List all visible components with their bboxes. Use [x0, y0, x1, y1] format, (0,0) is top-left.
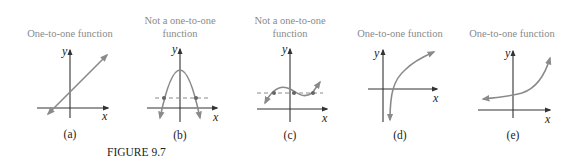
panel-d-label: (d): [393, 129, 407, 142]
x-axis-label: x: [432, 91, 439, 105]
panel-c-title-line1: Not a one-to-one: [254, 15, 325, 26]
panel-b-label: (b): [173, 129, 187, 142]
logarithmic-curve: [390, 52, 434, 120]
figure-caption: FIGURE 9.7: [107, 146, 166, 158]
x-axis-label: x: [321, 111, 328, 125]
panel-c-label: (c): [284, 129, 297, 142]
y-axis-label: y: [373, 46, 380, 60]
x-axis-label: x: [544, 112, 551, 126]
panel-a-label: (a): [64, 128, 77, 141]
panel-b: Not a one-to-one function y x (b): [144, 15, 219, 142]
panel-b-title-line1: Not a one-to-one: [144, 15, 215, 26]
line-curve: [48, 55, 107, 114]
panel-d: One-to-one function y x (d): [357, 28, 443, 142]
panel-c: Not a one-to-one function y x (c): [254, 15, 328, 142]
x-axis-label: x: [101, 109, 108, 123]
panel-e-title: One-to-one function: [469, 28, 555, 39]
figure-9-7: One-to-one function y x (a) Not a one-to…: [0, 0, 567, 165]
intersection-point: [194, 96, 198, 100]
intersection-point: [272, 91, 276, 95]
panel-b-title-line2: function: [163, 28, 199, 39]
intersection-point: [311, 91, 315, 95]
x-axis-label: x: [212, 110, 219, 124]
y-axis-label: y: [281, 42, 288, 56]
panel-e: One-to-one function y x (e): [469, 28, 555, 142]
panel-e-label: (e): [507, 129, 520, 142]
y-axis-label: y: [171, 42, 178, 56]
panel-c-title-line2: function: [273, 28, 309, 39]
panel-d-title: One-to-one function: [357, 28, 443, 39]
y-axis-label: y: [61, 44, 68, 58]
intersection-point: [162, 96, 166, 100]
panel-a: One-to-one function y x (a): [27, 28, 113, 141]
exponential-curve: [483, 58, 550, 99]
intersection-point: [292, 91, 296, 95]
panel-a-title: One-to-one function: [27, 28, 113, 39]
y-axis-label: y: [504, 46, 511, 60]
